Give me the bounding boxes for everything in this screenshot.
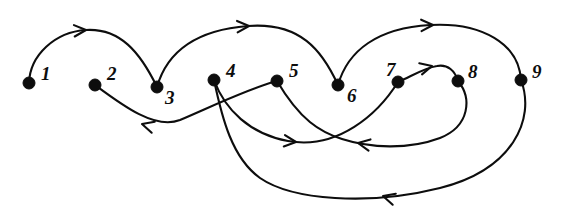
node-label-9: 9: [532, 61, 542, 82]
graph-node-5: [271, 75, 283, 87]
edge-4-to-7: [214, 80, 398, 142]
graph-node-4: [208, 74, 220, 86]
nodes-layer: [23, 74, 527, 93]
node-label-8: 8: [468, 61, 478, 82]
node-label-4: 4: [225, 60, 236, 81]
arrowheads-layer: [74, 20, 433, 205]
edges-layer: [29, 25, 525, 199]
node-label-7: 7: [386, 59, 397, 80]
edge-3-to-6: [157, 26, 338, 87]
graph-node-6: [332, 79, 344, 91]
graph-node-8: [452, 75, 464, 87]
graph-node-2: [89, 79, 101, 91]
graph-node-3: [151, 81, 163, 93]
graph-node-9: [515, 74, 527, 86]
node-label-2: 2: [106, 63, 117, 84]
edge-5-to-2-arrowhead-icon: [142, 122, 155, 133]
node-label-3: 3: [164, 87, 175, 108]
graph-node-1: [23, 77, 35, 89]
node-label-6: 6: [347, 85, 357, 106]
node-label-1: 1: [41, 63, 51, 84]
edge-5-to-2: [95, 81, 277, 122]
graph-figure: 123456789: [0, 0, 573, 216]
edge-6-to-9: [338, 25, 521, 85]
directed-graph-diagram: 123456789: [0, 0, 573, 216]
node-label-5: 5: [289, 60, 299, 81]
